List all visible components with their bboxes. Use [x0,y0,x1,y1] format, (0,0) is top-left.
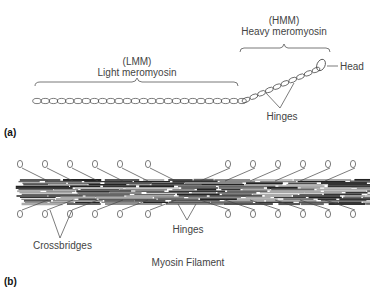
hmm-abbr-label: (HMM) [269,15,300,26]
lmm-chain [33,98,247,103]
part-label-b: (b) [4,276,17,287]
lmm-bracket [35,78,238,86]
hmm-name-label: Heavy meromyosin [241,26,327,37]
hinges-label-a: Hinges [266,111,297,122]
lmm-name-label: Light meromyosin [98,67,177,78]
head-label: Head [340,61,364,72]
crossbridges-label: Crossbridges [33,240,92,251]
hinges-pointer-b [178,204,196,220]
crossbridges-pointer [50,210,72,238]
part-label-a: (a) [4,127,16,138]
myosin-head [315,58,327,72]
hinges-pointer-a [266,83,294,108]
hmm-bracket [240,44,330,52]
filament-caption: Myosin Filament [152,257,225,268]
lmm-abbr-label: (LMM) [123,56,152,67]
hmm-chain [241,66,321,104]
hinges-label-b: Hinges [172,224,203,235]
